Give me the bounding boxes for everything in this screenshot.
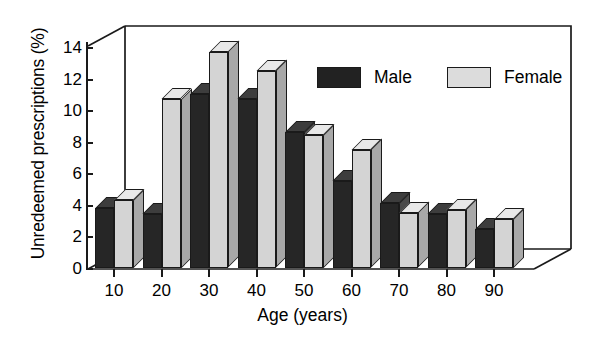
bar-female-age-10	[114, 200, 133, 268]
legend-swatch-female	[447, 67, 491, 88]
bar-female-age-70	[399, 213, 418, 268]
bar-front-face	[285, 132, 304, 268]
legend-swatch-male	[317, 67, 361, 88]
legend-label-female: Female	[504, 67, 562, 88]
bar-female-age-60	[352, 150, 371, 268]
x-tick-label: 30	[187, 281, 231, 301]
bar-male-age-20	[143, 214, 162, 268]
x-tick-mark	[303, 269, 305, 277]
bar-female-age-80	[447, 210, 466, 268]
bar-front-face	[494, 219, 513, 268]
x-tick-mark	[493, 269, 495, 277]
bar-front-face	[475, 229, 494, 268]
bar-front-face	[380, 203, 399, 268]
x-tick-mark	[161, 269, 163, 277]
bar-front-face	[352, 150, 371, 268]
bar-front-face	[95, 208, 114, 268]
bar-female-age-30	[209, 52, 228, 268]
bar-male-age-30	[190, 94, 209, 268]
x-tick-label: 80	[425, 281, 469, 301]
x-tick-mark	[446, 269, 448, 277]
bar-female-age-50	[304, 135, 323, 268]
bar-front-face	[428, 214, 447, 268]
bar-front-face	[209, 52, 228, 268]
x-tick-label: 70	[377, 281, 421, 301]
bar-female-age-90	[494, 219, 513, 268]
x-tick-mark	[351, 269, 353, 277]
bar-male-age-60	[333, 181, 352, 268]
bar-front-face	[190, 94, 209, 268]
x-tick-label: 90	[472, 281, 516, 301]
bar-front-face	[238, 99, 257, 268]
x-tick-label: 60	[330, 281, 374, 301]
bar-front-face	[304, 135, 323, 268]
legend-entry-male: Male	[317, 64, 412, 90]
bar-front-face	[143, 214, 162, 268]
x-tick-mark	[113, 269, 115, 277]
bar-male-age-10	[95, 208, 114, 268]
x-tick-label: 10	[92, 281, 136, 301]
x-axis-title: Age (years)	[0, 305, 605, 326]
x-tick-label: 50	[282, 281, 326, 301]
bar-male-age-80	[428, 214, 447, 268]
x-tick-label: 40	[235, 281, 279, 301]
x-tick-label: 20	[140, 281, 184, 301]
bar-female-age-40	[257, 71, 276, 268]
bar-front-face	[257, 71, 276, 268]
bar-side-face	[513, 208, 524, 268]
bar-front-face	[333, 181, 352, 268]
bar-male-age-70	[380, 203, 399, 268]
bar-male-age-40	[238, 99, 257, 268]
legend-entry-female: Female	[447, 64, 562, 90]
x-tick-mark	[208, 269, 210, 277]
legend-label-male: Male	[374, 67, 412, 88]
bar-front-face	[162, 99, 181, 268]
x-tick-mark	[256, 269, 258, 277]
bar-front-face	[447, 210, 466, 268]
bar-male-age-90	[475, 229, 494, 268]
bar-female-age-20	[162, 99, 181, 268]
bar-male-age-50	[285, 132, 304, 268]
bar-front-face	[399, 213, 418, 268]
x-tick-mark	[398, 269, 400, 277]
bar-chart-figure: Unredeemed prescriptions (%) 02468101214…	[0, 0, 605, 346]
bar-front-face	[114, 200, 133, 268]
